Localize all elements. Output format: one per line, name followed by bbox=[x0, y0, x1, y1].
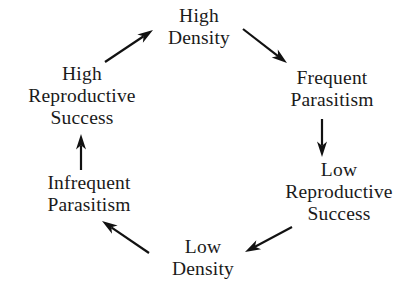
arrow-high-density-to-frequent-parasitism-head bbox=[272, 50, 287, 63]
node-high-reproductive-success: High Reproductive Success bbox=[28, 63, 135, 129]
arrow-low-reproductive-success-to-low-density-shaft bbox=[255, 227, 292, 247]
arrow-low-reproductive-success-to-low-density-head bbox=[245, 240, 261, 252]
arrow-high-reproductive-success-to-high-density bbox=[105, 30, 153, 62]
arrow-high-reproductive-success-to-high-density-shaft bbox=[105, 36, 144, 62]
node-high-density: High Density bbox=[168, 5, 230, 49]
arrow-high-density-to-frequent-parasitism-shaft bbox=[243, 29, 278, 56]
arrow-low-density-to-infrequent-parasitism bbox=[102, 221, 149, 253]
node-frequent-parasitism: Frequent Parasitism bbox=[290, 67, 373, 111]
arrow-frequent-parasitism-to-low-reproductive-success-head bbox=[317, 142, 327, 158]
arrow-high-reproductive-success-to-high-density-head bbox=[137, 30, 153, 43]
arrow-infrequent-parasitism-to-high-reproductive-success-head bbox=[76, 134, 86, 150]
node-low-reproductive-success: Low Reproductive Success bbox=[285, 159, 392, 225]
node-infrequent-parasitism: Infrequent Parasitism bbox=[47, 172, 130, 216]
node-low-density: Low Density bbox=[172, 236, 234, 280]
arrow-low-reproductive-success-to-low-density bbox=[245, 227, 292, 252]
arrow-high-density-to-frequent-parasitism bbox=[243, 29, 287, 63]
arrow-low-density-to-infrequent-parasitism-head bbox=[102, 221, 118, 234]
cycle-diagram: High Density Frequent Parasitism Low Rep… bbox=[0, 0, 419, 293]
arrow-low-density-to-infrequent-parasitism-shaft bbox=[111, 227, 149, 253]
arrow-infrequent-parasitism-to-high-reproductive-success bbox=[76, 134, 86, 170]
arrow-frequent-parasitism-to-low-reproductive-success bbox=[317, 119, 327, 157]
